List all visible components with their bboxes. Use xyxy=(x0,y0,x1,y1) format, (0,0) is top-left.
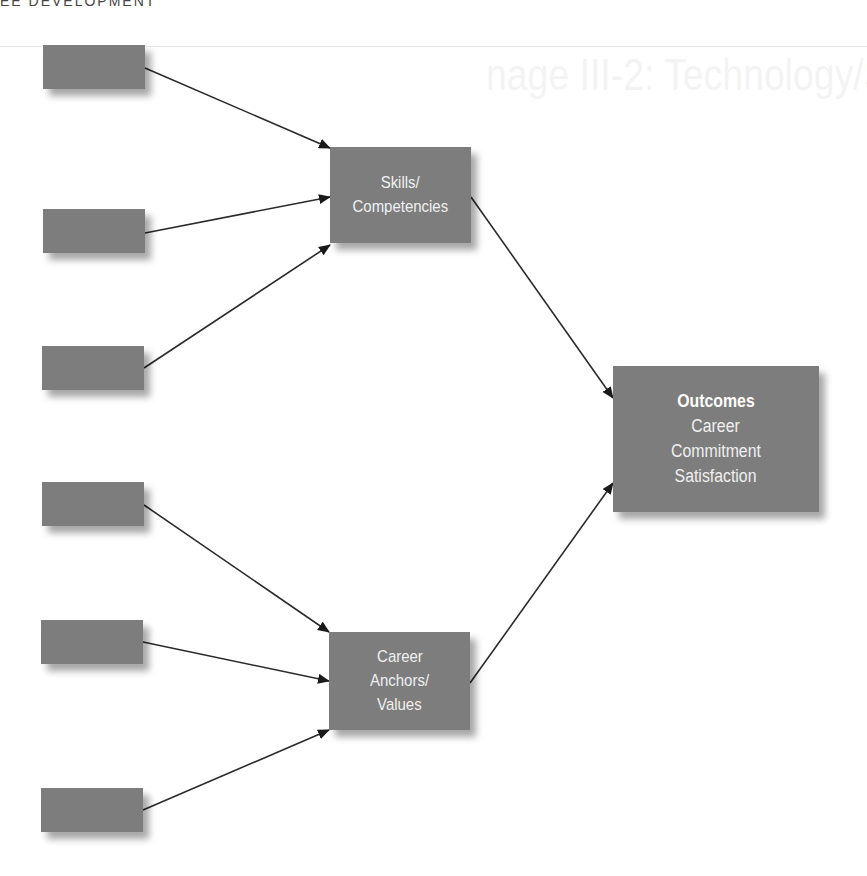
input-box-5 xyxy=(41,620,143,664)
skills-box-line-2: Competencies xyxy=(353,195,449,219)
input-box-2 xyxy=(43,209,145,253)
outcomes-box: Outcomes Career Commitment Satisfaction xyxy=(613,366,819,512)
skills-box-line-1: Skills/ xyxy=(381,171,420,195)
input-box-6 xyxy=(41,788,143,832)
arrow-input-2-to-skills xyxy=(145,197,330,233)
outcomes-box-line-1: Career xyxy=(692,414,740,439)
input-box-3 xyxy=(42,346,144,390)
career-anchors-values-box: Career Anchors/ Values xyxy=(329,632,470,730)
arrow-anchors-to-outcomes xyxy=(470,483,613,683)
arrow-input-3-to-skills xyxy=(144,245,330,368)
arrow-input-5-to-anchors xyxy=(143,642,329,681)
anchors-box-line-3: Values xyxy=(377,693,422,717)
outcomes-box-line-3: Satisfaction xyxy=(675,464,757,489)
arrow-input-6-to-anchors xyxy=(143,730,329,810)
anchors-box-line-2: Anchors/ xyxy=(370,669,429,693)
arrow-input-4-to-anchors xyxy=(144,505,329,632)
arrow-skills-to-outcomes xyxy=(471,197,613,398)
arrow-input-1-to-skills xyxy=(145,68,330,148)
input-box-1 xyxy=(43,45,145,89)
anchors-box-line-1: Career xyxy=(377,645,423,669)
input-box-4 xyxy=(42,482,144,526)
skills-competencies-box: Skills/ Competencies xyxy=(330,147,471,243)
outcomes-box-title: Outcomes xyxy=(677,389,754,414)
outcomes-box-line-2: Commitment xyxy=(671,439,761,464)
